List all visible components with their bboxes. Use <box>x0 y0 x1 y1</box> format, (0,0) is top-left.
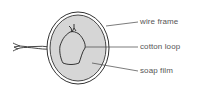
leader-wire-frame <box>106 22 138 26</box>
label-soap-film: soap film <box>140 66 173 76</box>
soap-film <box>50 15 106 81</box>
wire-handle <box>13 43 50 51</box>
label-cotton-loop: cotton loop <box>140 42 180 52</box>
label-wire-frame: wire frame <box>140 17 178 27</box>
